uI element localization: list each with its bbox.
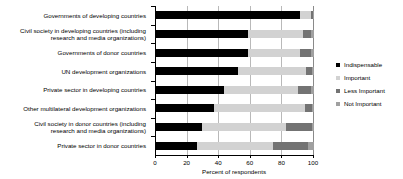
y-axis-tick xyxy=(151,25,155,26)
y-axis-tick xyxy=(151,62,155,63)
legend-label: Important xyxy=(344,74,370,81)
legend-item: Not Important xyxy=(336,97,385,110)
bar-segment-indispensable xyxy=(156,67,238,75)
category-label: Civil society in donor countries (includ… xyxy=(0,120,146,134)
legend-swatch-icon xyxy=(336,63,340,67)
x-tick-20 xyxy=(187,155,188,158)
x-tick-0 xyxy=(155,155,156,158)
y-axis-tick xyxy=(151,118,155,119)
y-axis-tick xyxy=(151,43,155,44)
bar-row xyxy=(156,86,314,94)
bar-segment-indispensable xyxy=(156,49,248,57)
legend-label: Not Important xyxy=(344,100,382,107)
bar-row xyxy=(156,123,314,131)
bar-segment-important xyxy=(300,11,311,19)
x-tick-80 xyxy=(281,155,282,158)
bar-segment-important xyxy=(248,49,300,57)
x-tick-label-60: 60 xyxy=(240,159,260,166)
x-tick-40 xyxy=(218,155,219,158)
stacked-bar xyxy=(156,104,314,112)
category-axis-labels: Governments of developing countriesCivil… xyxy=(0,6,150,155)
stacked-bar xyxy=(156,86,314,94)
bar-segment-less-important xyxy=(273,142,308,150)
x-axis-line xyxy=(155,155,313,156)
category-label: Private sector in developing countries xyxy=(0,86,146,93)
plot-inner xyxy=(156,6,314,155)
y-axis-tick xyxy=(151,6,155,7)
category-label: Governments of developing countries xyxy=(0,12,146,19)
category-label: Other multilateral development organizat… xyxy=(0,105,146,112)
legend-swatch-icon xyxy=(336,76,340,80)
bar-row xyxy=(156,142,314,150)
bar-segment-less-important xyxy=(286,123,313,131)
bar-segment-important xyxy=(214,104,304,112)
stacked-bar-chart: Governments of developing countriesCivil… xyxy=(0,0,403,179)
stacked-bar xyxy=(156,11,314,19)
bar-segment-not-important xyxy=(312,123,314,131)
bar-segment-important xyxy=(197,142,273,150)
bar-segment-less-important xyxy=(298,86,311,94)
y-axis-tick xyxy=(151,81,155,82)
bar-segment-indispensable xyxy=(156,86,224,94)
bar-segment-indispensable xyxy=(156,123,202,131)
x-tick-60 xyxy=(250,155,251,158)
bar-segment-not-important xyxy=(311,49,314,57)
x-tick-label-100: 100 xyxy=(303,159,323,166)
bar-segment-important xyxy=(202,123,286,131)
stacked-bar xyxy=(156,30,314,38)
y-axis-tick xyxy=(151,136,155,137)
bar-segment-less-important xyxy=(303,30,311,38)
bar-segment-indispensable xyxy=(156,104,214,112)
stacked-bar xyxy=(156,142,314,150)
gridline-40 xyxy=(218,6,219,155)
legend-swatch-icon xyxy=(336,102,340,106)
category-label: Governments of donor countries xyxy=(0,49,146,56)
gridline-60 xyxy=(250,6,251,155)
category-label: Civil society in developing countries (i… xyxy=(0,27,146,41)
gridline-20 xyxy=(187,6,188,155)
bar-segment-less-important xyxy=(300,49,311,57)
bar-row xyxy=(156,49,314,57)
legend-label: Less Important xyxy=(344,87,385,94)
x-tick-label-20: 20 xyxy=(177,159,197,166)
stacked-bar xyxy=(156,49,314,57)
bar-row xyxy=(156,30,314,38)
legend-swatch-icon xyxy=(336,89,340,93)
bar-segment-important xyxy=(224,86,298,94)
legend-label: Indispensable xyxy=(344,61,382,68)
category-label: Private sector in donor countries xyxy=(0,142,146,149)
bar-segment-indispensable xyxy=(156,11,300,19)
x-tick-label-80: 80 xyxy=(271,159,291,166)
x-tick-label-0: 0 xyxy=(145,159,165,166)
bar-segment-indispensable xyxy=(156,30,248,38)
bar-segment-not-important xyxy=(312,104,314,112)
bar-segment-not-important xyxy=(312,67,314,75)
stacked-bar xyxy=(156,67,314,75)
chart-legend: IndispensableImportantLess ImportantNot … xyxy=(336,58,385,110)
x-axis-title: Percent of respondents xyxy=(155,168,313,175)
legend-item: Indispensable xyxy=(336,58,385,71)
stacked-bar xyxy=(156,123,314,131)
bar-segment-not-important xyxy=(308,142,314,150)
category-label: UN development organizations xyxy=(0,68,146,75)
x-tick-label-40: 40 xyxy=(208,159,228,166)
bar-segment-not-important xyxy=(311,86,314,94)
bar-row xyxy=(156,104,314,112)
bar-segment-not-important xyxy=(313,11,314,19)
gridline-100 xyxy=(313,6,314,155)
gridline-80 xyxy=(281,6,282,155)
y-axis-tick xyxy=(151,99,155,100)
plot-area xyxy=(155,6,313,155)
bar-segment-important xyxy=(248,30,303,38)
bar-segment-not-important xyxy=(311,30,314,38)
legend-item: Important xyxy=(336,71,385,84)
legend-item: Less Important xyxy=(336,84,385,97)
bar-segment-less-important xyxy=(305,104,313,112)
bar-row xyxy=(156,67,314,75)
bar-segment-indispensable xyxy=(156,142,197,150)
x-tick-100 xyxy=(313,155,314,158)
bar-row xyxy=(156,11,314,19)
bar-segment-important xyxy=(238,67,306,75)
